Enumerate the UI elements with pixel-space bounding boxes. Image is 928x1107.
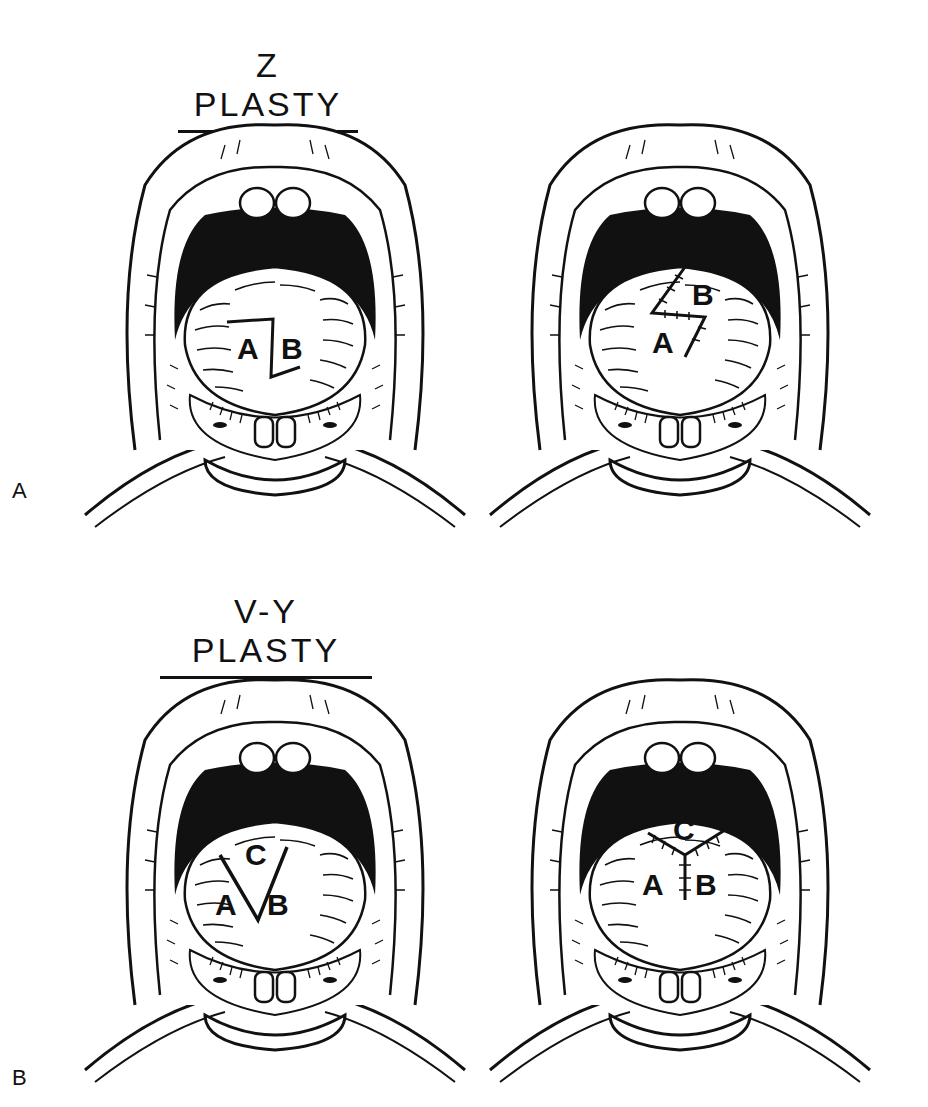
flap-label-b: B xyxy=(692,278,714,311)
flap-label-a: A xyxy=(215,888,237,921)
flap-label-b: B xyxy=(267,888,289,921)
figure-v-y-plasty-sutured: C A B xyxy=(480,650,880,1100)
panel-label-b: B xyxy=(12,1065,27,1091)
flap-label-a: A xyxy=(237,332,259,365)
flap-label-a: A xyxy=(642,868,664,901)
figure-v-y-plasty-incision: C A B xyxy=(75,650,475,1100)
panel-label-a: A xyxy=(12,478,27,504)
flap-label-a: A xyxy=(652,326,674,359)
flap-label-c: C xyxy=(245,838,267,871)
figure-z-plasty-sutured: B A xyxy=(480,95,880,545)
flap-label-c: C xyxy=(673,813,695,846)
flap-label-b: B xyxy=(281,332,303,365)
flap-label-b: B xyxy=(695,868,717,901)
figure-z-plasty-incision: A B xyxy=(75,95,475,545)
